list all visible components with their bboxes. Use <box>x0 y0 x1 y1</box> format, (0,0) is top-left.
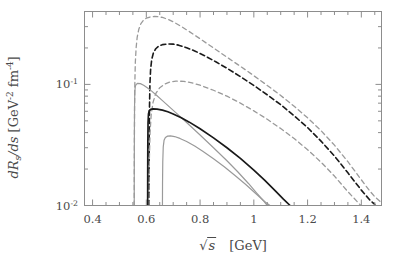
figure-container: 0.40.60.811.21.4 10-210-1 √s [GeV] dRs/d… <box>0 0 403 265</box>
y-axis-unit-open: [GeV <box>6 100 21 133</box>
x-tick-label: 1.2 <box>298 212 316 226</box>
x-tick-label: 1.4 <box>352 212 370 226</box>
series-black-dashed-middle <box>149 44 375 206</box>
y-tick-label: 10-1 <box>38 77 78 92</box>
x-axis-title-symbol: s <box>207 237 216 253</box>
y-tick-label-mantissa: 10 <box>56 78 71 92</box>
x-tick-label: 0.4 <box>83 212 101 226</box>
x-axis-title-unit: [GeV] <box>229 238 267 253</box>
y-axis-title: dRs/ds [GeV-2 fm-4] <box>5 17 24 217</box>
axes-frame <box>85 12 382 206</box>
y-axis-title-numerator: dR <box>6 160 21 178</box>
series-gray-solid-upper <box>134 83 267 205</box>
x-tick-label: 0.6 <box>137 212 155 226</box>
y-axis-title-subscript: s <box>13 156 23 161</box>
y-axis-unit-mid: fm <box>6 70 21 91</box>
x-axis-title: √s [GeV] <box>199 238 267 253</box>
y-axis-unit-close: ] <box>6 56 21 61</box>
y-tick-label: 10-2 <box>38 198 78 213</box>
x-tick-label: 0.8 <box>191 212 209 226</box>
x-tick-label: 1 <box>250 212 257 226</box>
series-black-solid-main <box>148 109 290 206</box>
y-axis-unit-exp2: -4 <box>5 61 15 70</box>
axes-frame-layer <box>85 12 382 206</box>
curves-layer <box>134 16 380 208</box>
y-axis-title-denominator: /ds <box>6 137 21 156</box>
y-tick-label-mantissa: 10 <box>56 199 71 213</box>
y-tick-label-exponent: -2 <box>70 198 78 207</box>
y-tick-label-exponent: -1 <box>70 77 78 86</box>
y-axis-unit-exp1: -2 <box>5 91 15 100</box>
